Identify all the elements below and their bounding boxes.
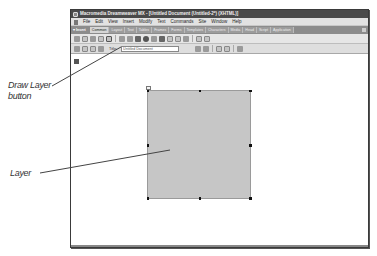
draw-layer-callout: Draw Layer button [8,80,51,102]
draw-layer-callout-line2: button [8,91,51,102]
layer-callout: Layer [10,168,31,179]
draw-layer-callout-line1: Draw Layer [8,80,51,91]
callout-lines [0,0,377,256]
